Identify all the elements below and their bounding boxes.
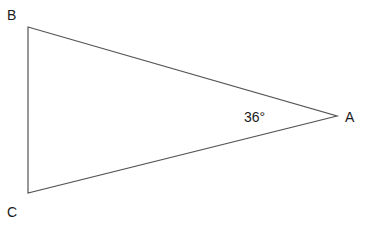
- vertex-label-c: C: [7, 204, 17, 220]
- angle-label-a: 36°: [244, 109, 265, 125]
- triangle-abc: [28, 27, 337, 193]
- triangle-diagram: B C A 36°: [0, 0, 370, 227]
- vertex-label-b: B: [7, 7, 16, 23]
- vertex-label-a: A: [345, 109, 355, 125]
